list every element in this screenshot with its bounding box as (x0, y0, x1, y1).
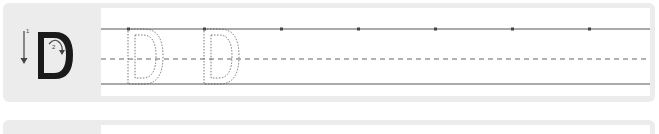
stroke-1-arrow-icon: 1 (21, 28, 31, 64)
tracing-letter-d-1 (128, 29, 163, 84)
practice-row-2 (3, 120, 655, 134)
writing-area[interactable] (101, 125, 650, 134)
stroke-2-arrow-icon: 2 (49, 40, 65, 55)
practice-row-1: 1 2 (3, 3, 655, 102)
svg-text:1: 1 (26, 28, 30, 34)
model-letter-box (3, 120, 99, 134)
model-letter-box: 1 2 (3, 3, 99, 102)
handwriting-lines (101, 8, 650, 96)
tracing-letter-d-2 (204, 29, 239, 84)
writing-area[interactable] (101, 8, 650, 96)
svg-text:2: 2 (52, 44, 56, 50)
model-letter-d-icon: 1 2 (3, 3, 99, 102)
